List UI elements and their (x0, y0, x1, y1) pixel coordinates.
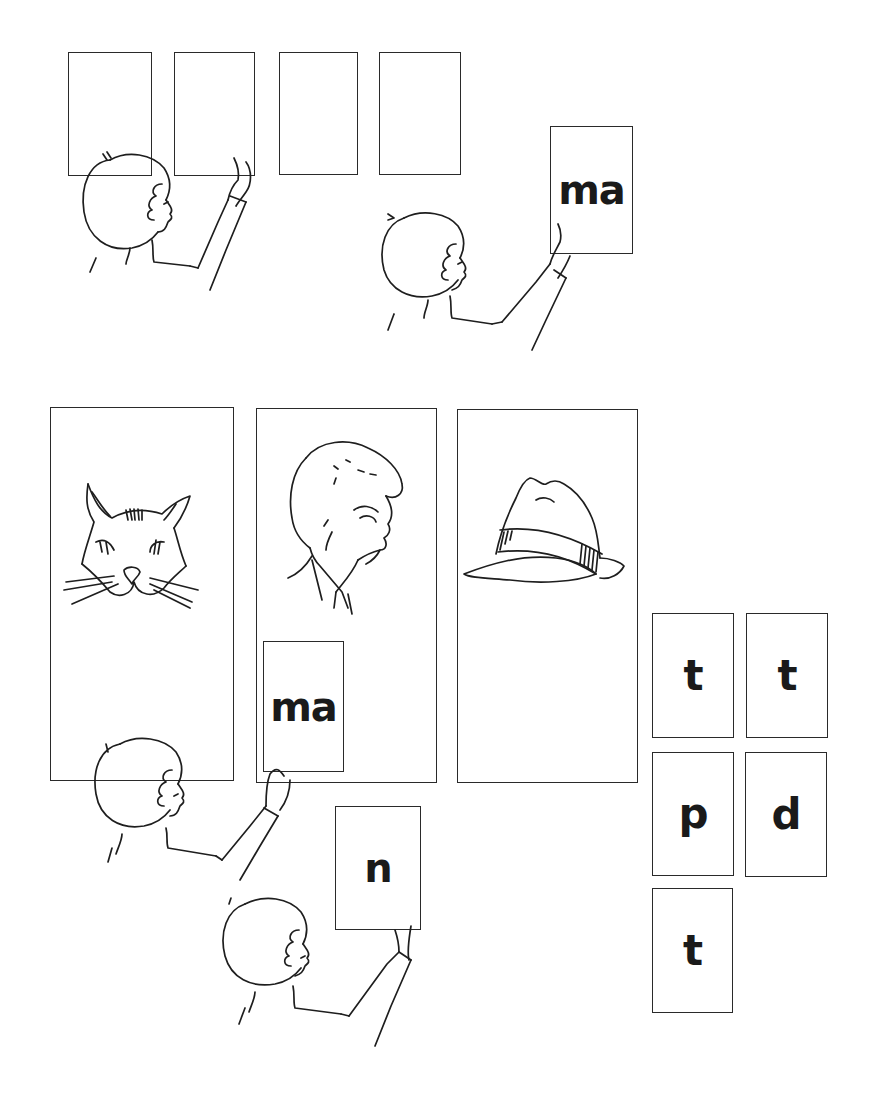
letter-card-d[interactable]: d (745, 752, 827, 877)
hat-icon (460, 474, 636, 584)
blank-card-3[interactable] (279, 52, 358, 175)
man-face-icon (276, 436, 416, 616)
letter-card-t[interactable]: t (652, 888, 733, 1013)
letter-card-t[interactable]: t (652, 613, 734, 738)
letter-card-t[interactable]: t (746, 613, 828, 738)
child-figure-icon (215, 890, 435, 1060)
picture-panel-hat[interactable] (457, 409, 638, 783)
child-figure-icon (376, 210, 576, 360)
cat-icon (64, 480, 214, 620)
child-figure-icon (80, 730, 310, 890)
letter-card-p[interactable]: p (652, 752, 734, 876)
child-figure-icon (70, 140, 270, 310)
blank-card-4[interactable] (379, 52, 461, 175)
